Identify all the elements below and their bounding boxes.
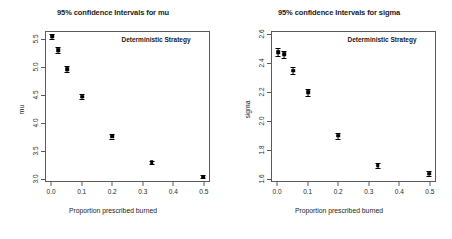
y-axis-tick bbox=[41, 67, 45, 68]
x-axis-tick bbox=[368, 182, 369, 186]
data-point bbox=[56, 48, 60, 52]
y-axis-tick bbox=[267, 179, 271, 180]
y-axis-tick-label: 5.5 bbox=[32, 30, 39, 48]
x-axis-tick-label: 0.1 bbox=[303, 188, 312, 195]
y-axis-tick-label: 4.5 bbox=[32, 86, 39, 104]
error-bar-cap bbox=[276, 56, 281, 57]
chart-panel-mu: 95% confidence Intervals for mu Determin… bbox=[0, 0, 226, 239]
x-axis-tick-label: 0.5 bbox=[425, 188, 434, 195]
y-axis-tick bbox=[267, 121, 271, 122]
y-axis-title-mu: mu bbox=[18, 95, 25, 125]
data-point bbox=[65, 67, 69, 71]
y-axis-tick bbox=[41, 179, 45, 180]
x-axis-tick bbox=[338, 182, 339, 186]
y-axis-tick-label: 2.0 bbox=[258, 112, 265, 130]
x-axis-tick-label: 0.2 bbox=[108, 188, 117, 195]
error-bar-cap bbox=[306, 89, 311, 90]
error-bar-cap bbox=[50, 39, 55, 40]
x-axis-tick-label: 0.2 bbox=[334, 188, 343, 195]
chart-title-mu: 95% confidence Intervals for mu bbox=[0, 8, 226, 17]
y-axis-tick bbox=[267, 63, 271, 64]
y-axis-tick-label: 4.0 bbox=[32, 114, 39, 132]
y-axis-tick-label: 5.0 bbox=[32, 58, 39, 76]
error-bar-cap bbox=[291, 74, 296, 75]
x-axis-tick bbox=[203, 182, 204, 186]
y-axis-tick-label: 1.6 bbox=[258, 170, 265, 188]
y-axis-tick bbox=[41, 123, 45, 124]
y-axis-tick-label: 2.2 bbox=[258, 83, 265, 101]
error-bar-cap bbox=[306, 96, 311, 97]
error-bar-cap bbox=[80, 99, 85, 100]
x-axis-tick-label: 0.5 bbox=[199, 188, 208, 195]
y-axis-tick-label: 1.8 bbox=[258, 141, 265, 159]
data-point bbox=[50, 35, 54, 39]
data-point bbox=[282, 52, 286, 56]
x-axis-tick bbox=[142, 182, 143, 186]
error-bar-cap bbox=[375, 168, 380, 169]
error-bar-cap bbox=[282, 58, 287, 59]
data-point bbox=[201, 175, 205, 179]
data-point bbox=[276, 50, 280, 54]
annotation-deterministic-strategy-mu: Deterministic Strategy bbox=[101, 36, 211, 43]
y-axis-tick-label: 2.4 bbox=[258, 54, 265, 72]
x-axis-tick bbox=[112, 182, 113, 186]
data-point bbox=[306, 90, 310, 94]
y-axis-title-sigma: sigma bbox=[244, 95, 251, 125]
y-axis-tick bbox=[267, 92, 271, 93]
data-point bbox=[111, 135, 115, 139]
x-axis-tick-label: 0.0 bbox=[273, 188, 282, 195]
x-axis-tick bbox=[173, 182, 174, 186]
x-axis-tick bbox=[307, 182, 308, 186]
y-axis-tick bbox=[267, 34, 271, 35]
y-axis-tick bbox=[267, 150, 271, 151]
annotation-deterministic-strategy-sigma: Deterministic Strategy bbox=[327, 36, 437, 43]
data-point bbox=[337, 134, 341, 138]
y-axis-tick-label: 2.6 bbox=[258, 25, 265, 43]
data-point bbox=[150, 160, 154, 164]
error-bar-cap bbox=[56, 53, 61, 54]
figure-canvas: 95% confidence Intervals for mu Determin… bbox=[0, 0, 452, 239]
y-axis-tick bbox=[41, 151, 45, 152]
y-axis-tick bbox=[41, 95, 45, 96]
x-axis-tick bbox=[277, 182, 278, 186]
x-axis-tick-label: 0.3 bbox=[138, 188, 147, 195]
error-bar-cap bbox=[336, 139, 341, 140]
x-axis-title-mu: Proportion prescribed burned bbox=[0, 207, 226, 214]
y-axis-tick bbox=[41, 39, 45, 40]
x-axis-tick bbox=[81, 182, 82, 186]
x-axis-tick bbox=[429, 182, 430, 186]
x-axis-tick-label: 0.3 bbox=[364, 188, 373, 195]
data-point bbox=[427, 172, 431, 176]
data-point bbox=[291, 69, 295, 73]
data-point bbox=[80, 95, 84, 99]
data-point bbox=[376, 163, 380, 167]
x-axis-tick bbox=[399, 182, 400, 186]
x-axis-tick-label: 0.0 bbox=[47, 188, 56, 195]
chart-panel-sigma: 95% confidence Intervals for sigma Deter… bbox=[226, 0, 452, 239]
x-axis-tick bbox=[51, 182, 52, 186]
plot-area-sigma: Deterministic Strategy bbox=[271, 31, 436, 182]
chart-title-sigma: 95% confidence Intervals for sigma bbox=[226, 8, 452, 17]
y-axis-tick-label: 3.5 bbox=[32, 142, 39, 160]
error-bar-cap bbox=[282, 51, 287, 52]
x-axis-title-sigma: Proportion prescribed burned bbox=[226, 207, 452, 214]
error-bar-cap bbox=[276, 48, 281, 49]
error-bar-cap bbox=[65, 72, 70, 73]
x-axis-tick-label: 0.1 bbox=[77, 188, 86, 195]
x-axis-tick-label: 0.4 bbox=[395, 188, 404, 195]
plot-area-mu: Deterministic Strategy bbox=[45, 31, 210, 182]
error-bar-cap bbox=[291, 67, 296, 68]
y-axis-tick-label: 3.0 bbox=[32, 170, 39, 188]
error-bar-cap bbox=[110, 139, 115, 140]
x-axis-tick-label: 0.4 bbox=[169, 188, 178, 195]
error-bar-cap bbox=[426, 176, 431, 177]
